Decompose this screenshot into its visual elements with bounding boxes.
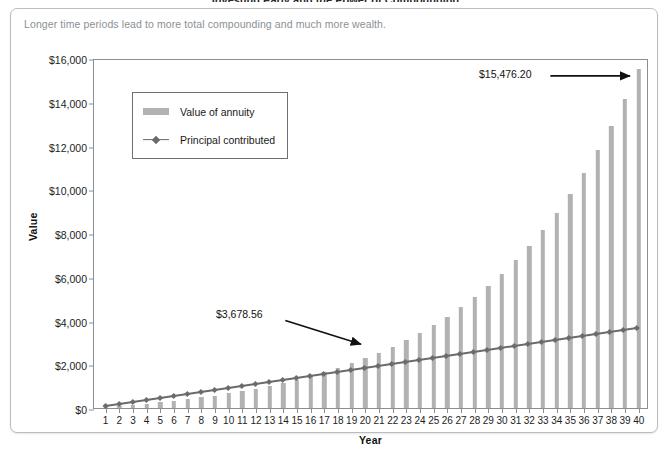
x-axis-tick xyxy=(365,408,366,413)
x-axis-tick xyxy=(529,408,530,413)
y-axis-tick xyxy=(89,103,94,104)
x-axis-tick xyxy=(488,408,489,413)
bar xyxy=(349,363,353,408)
bar xyxy=(185,399,189,408)
x-axis-tick-label: 33 xyxy=(537,415,548,426)
bar xyxy=(322,372,326,408)
x-axis-tick xyxy=(297,408,298,413)
y-axis-tick xyxy=(89,278,94,279)
x-axis-tick xyxy=(147,408,148,413)
y-axis-tick-label: $16,000 xyxy=(49,54,87,66)
bar xyxy=(596,150,600,408)
y-axis-tick-label: $0 xyxy=(75,404,87,416)
x-axis-tick xyxy=(475,408,476,413)
bar xyxy=(555,213,559,408)
legend-item-principal: Principal contributed xyxy=(143,130,275,149)
bar xyxy=(377,353,381,408)
principal-marker xyxy=(211,387,217,393)
x-axis-tick xyxy=(598,408,599,413)
x-axis-tick xyxy=(516,408,517,413)
x-axis-tick-label: 27 xyxy=(455,415,466,426)
x-axis-tick xyxy=(242,408,243,413)
bar xyxy=(459,307,463,408)
legend-item-annuity: Value of annuity xyxy=(143,102,275,121)
y-axis-tick-label: $14,000 xyxy=(49,98,87,110)
x-axis-tick xyxy=(557,408,558,413)
x-axis-tick xyxy=(584,408,585,413)
x-axis-tick xyxy=(393,408,394,413)
principal-marker xyxy=(198,389,204,395)
bar xyxy=(172,401,176,408)
bar xyxy=(254,389,258,408)
bar xyxy=(418,333,422,408)
y-axis-tick-label: $2,000 xyxy=(55,360,87,372)
legend-label-annuity: Value of annuity xyxy=(180,106,255,118)
x-axis-tick xyxy=(215,408,216,413)
x-axis-tick-label: 22 xyxy=(387,415,398,426)
x-axis-tick-label: 6 xyxy=(171,415,177,426)
y-axis-tick xyxy=(89,410,94,411)
x-axis-tick-label: 26 xyxy=(442,415,453,426)
x-axis-tick xyxy=(311,408,312,413)
x-axis-tick-label: 40 xyxy=(633,415,644,426)
x-axis-tick-label: 20 xyxy=(360,415,371,426)
y-axis-tick xyxy=(89,60,94,61)
y-axis-tick-label: $12,000 xyxy=(49,142,87,154)
x-axis-title: Year xyxy=(94,434,647,446)
x-axis-tick xyxy=(611,408,612,413)
x-axis-tick-label: 31 xyxy=(510,415,521,426)
chart-subtitle: Longer time periods lead to more total c… xyxy=(24,18,386,30)
x-axis-tick xyxy=(283,408,284,413)
x-axis-tick-label: 39 xyxy=(620,415,631,426)
principal-marker xyxy=(143,397,149,403)
bar xyxy=(623,99,627,408)
chart-legend: Value of annuity Principal contributed xyxy=(132,92,288,159)
chart-page: Investing Early and the Power of Compoun… xyxy=(0,0,671,452)
plot-area: $3,678.56 $15,476.20 Value of annuity Pr… xyxy=(93,59,648,409)
x-axis-tick xyxy=(106,408,107,413)
y-axis-tick xyxy=(89,235,94,236)
bar xyxy=(431,325,435,408)
x-axis-tick xyxy=(406,408,407,413)
x-axis-tick-label: 36 xyxy=(579,415,590,426)
x-axis-tick-label: 13 xyxy=(264,415,275,426)
x-axis-tick-label: 35 xyxy=(565,415,576,426)
annotation-label-annuity: $15,476.20 xyxy=(479,68,532,80)
x-axis-tick-label: 15 xyxy=(291,415,302,426)
x-axis-tick-label: 17 xyxy=(319,415,330,426)
bar xyxy=(199,397,203,408)
x-axis-tick xyxy=(201,408,202,413)
x-axis-tick xyxy=(160,408,161,413)
bar xyxy=(404,340,408,408)
principal-marker xyxy=(239,383,245,389)
x-axis-tick-label: 18 xyxy=(332,415,343,426)
x-axis-tick-label: 38 xyxy=(606,415,617,426)
bar xyxy=(514,260,518,408)
x-axis-tick xyxy=(639,408,640,413)
bar xyxy=(267,386,271,408)
x-axis-tick-label: 12 xyxy=(250,415,261,426)
x-axis-tick-label: 19 xyxy=(346,415,357,426)
x-axis-tick xyxy=(625,408,626,413)
principal-marker xyxy=(225,385,231,391)
x-axis-tick-label: 25 xyxy=(428,415,439,426)
x-axis-tick-label: 1 xyxy=(103,415,109,426)
y-axis-tick xyxy=(89,322,94,323)
legend-diamond-marker-icon xyxy=(152,135,160,143)
bar xyxy=(295,380,299,408)
legend-label-principal: Principal contributed xyxy=(180,134,275,146)
bar xyxy=(390,347,394,408)
x-axis-tick xyxy=(174,408,175,413)
y-axis-tick xyxy=(89,191,94,192)
chart-card: Longer time periods lead to more total c… xyxy=(10,8,658,433)
x-axis-tick xyxy=(434,408,435,413)
x-axis-tick xyxy=(502,408,503,413)
x-axis-tick xyxy=(379,408,380,413)
y-axis-tick-label: $6,000 xyxy=(55,273,87,285)
y-axis-tick xyxy=(89,147,94,148)
bar xyxy=(281,383,285,408)
x-axis-tick xyxy=(461,408,462,413)
x-axis-tick xyxy=(543,408,544,413)
x-axis-tick-label: 37 xyxy=(592,415,603,426)
x-axis-tick-label: 34 xyxy=(551,415,562,426)
